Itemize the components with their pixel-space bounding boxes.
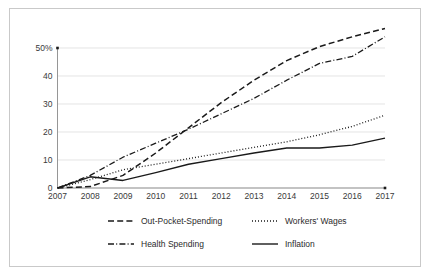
y-tick-label: 20 (43, 127, 53, 137)
x-tick-label: 2017 (376, 191, 395, 201)
x-tick-label: 2016 (343, 191, 362, 201)
x-axis-tick-labels: 2007200820092010201120122013201420152016… (48, 191, 395, 201)
x-tick-label: 2008 (81, 191, 100, 201)
x-tick-label: 2007 (48, 191, 67, 201)
x-tick-label: 2012 (212, 191, 231, 201)
series-line-health-spending (58, 37, 386, 188)
gridlines-group (58, 48, 386, 188)
y-axis-tick-labels: 50%403020100 (35, 43, 52, 193)
x-tick-label: 2011 (179, 191, 198, 201)
x-tick-label: 2013 (245, 191, 264, 201)
y-axis-end-marker (56, 47, 59, 50)
legend-label: Health Spending (141, 239, 204, 249)
y-tick-label: 30 (43, 99, 53, 109)
legend-label: Inflation (285, 239, 315, 249)
x-tick-label: 2009 (114, 191, 133, 201)
chart-figure: 50%403020100 200720082009201020112012201… (0, 0, 431, 278)
axes-group (56, 47, 386, 190)
x-axis-end-marker (384, 187, 387, 190)
series-lines-group (58, 28, 386, 188)
y-tick-label: 50% (35, 43, 52, 53)
legend-label: Out-Pocket-Spending (141, 216, 223, 226)
legend: Out-Pocket-SpendingWorkers' WagesHealth … (108, 216, 347, 249)
series-line-workers-wages (58, 115, 386, 188)
x-tick-label: 2010 (146, 191, 165, 201)
line-chart: 50%403020100 200720082009201020112012201… (0, 0, 431, 278)
x-tick-label: 2015 (310, 191, 329, 201)
legend-label: Workers' Wages (285, 216, 347, 226)
series-line-out-pocket-spending (58, 28, 386, 188)
x-tick-label: 2014 (277, 191, 296, 201)
y-tick-label: 10 (43, 155, 53, 165)
y-tick-label: 40 (43, 71, 53, 81)
